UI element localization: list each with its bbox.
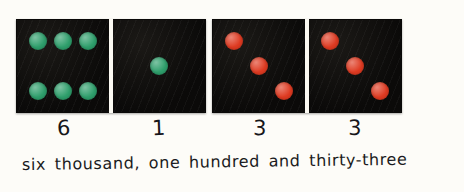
pip bbox=[275, 82, 293, 100]
domino-tens-units bbox=[212, 19, 402, 113]
number-in-words-sentence: six thousand, one hundred and thirty-thr… bbox=[22, 149, 452, 174]
digit-units: 3 bbox=[335, 116, 375, 141]
domino-half-three-tens bbox=[212, 19, 305, 113]
pip bbox=[371, 82, 389, 100]
digit-tens: 3 bbox=[240, 116, 280, 141]
pip bbox=[79, 82, 97, 100]
pip-grid-six bbox=[25, 28, 100, 103]
digit-hundreds: 1 bbox=[139, 115, 180, 140]
pip bbox=[225, 32, 243, 50]
pip bbox=[54, 82, 72, 100]
domino-half-three-units bbox=[309, 19, 402, 113]
pip bbox=[29, 82, 47, 100]
domino-half-six bbox=[16, 19, 109, 113]
digit-thousands: 6 bbox=[44, 115, 85, 140]
pip bbox=[29, 32, 47, 50]
pip bbox=[79, 32, 97, 50]
pip-grid-one bbox=[121, 28, 196, 103]
domino-thousands-hundreds bbox=[16, 19, 206, 113]
pip bbox=[346, 57, 364, 75]
pip-grid-three-tens bbox=[221, 28, 296, 103]
pip bbox=[150, 57, 168, 75]
worksheet-scene: 6 1 3 3 six thousand, one hundred and th… bbox=[0, 0, 464, 192]
pip bbox=[54, 32, 72, 50]
pip-grid-three-units bbox=[317, 28, 392, 103]
pip bbox=[250, 57, 268, 75]
domino-half-one bbox=[113, 19, 206, 113]
pip bbox=[321, 32, 339, 50]
